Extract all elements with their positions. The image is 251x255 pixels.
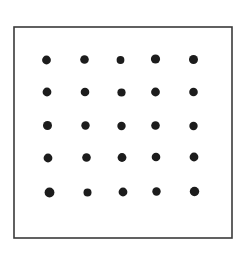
dot-grid-figure: [0, 0, 251, 255]
dot-r5c1: [45, 188, 55, 198]
dot-r2c4: [151, 88, 160, 97]
dot-r3c2: [81, 121, 89, 129]
dot-r3c1: [43, 121, 52, 130]
dot-r1c4: [151, 54, 160, 63]
dot-r3c3: [117, 122, 125, 130]
dot-r1c5: [189, 55, 198, 64]
dot-r4c2: [82, 153, 91, 162]
dot-r1c3: [117, 56, 125, 64]
dot-r2c3: [117, 88, 125, 96]
dot-r5c3: [119, 188, 128, 197]
dot-r4c1: [44, 154, 53, 163]
dot-r2c1: [43, 88, 52, 97]
dot-r3c5: [189, 122, 197, 130]
dot-r5c4: [152, 187, 160, 195]
dot-r4c5: [190, 153, 199, 162]
dot-r5c5: [190, 187, 199, 196]
dot-r4c3: [118, 153, 127, 162]
figure-canvas: [0, 0, 251, 255]
dot-r1c1: [42, 56, 51, 65]
dot-r4c4: [152, 153, 161, 162]
dot-r1c2: [80, 55, 89, 64]
dot-r3c4: [151, 121, 160, 130]
dot-r5c2: [84, 189, 92, 197]
dot-r2c2: [81, 88, 90, 97]
dot-r2c5: [189, 88, 198, 97]
